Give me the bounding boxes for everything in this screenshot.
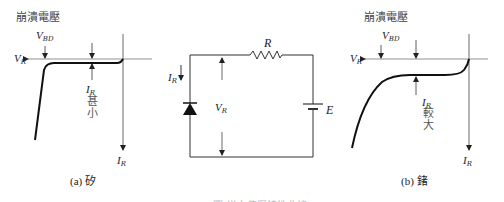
panel-b-ir-note: 較大: [421, 108, 435, 132]
circuit-voltage-label: VR: [215, 102, 227, 115]
resistor-label: R: [264, 37, 271, 49]
figure-caption-cropped: 圖 逆向偏壓特性曲線: [180, 197, 340, 202]
silicon-curve: [35, 59, 123, 140]
reverse-bias-circuit: [181, 51, 323, 157]
germanium-curve: [352, 59, 469, 148]
panel-b-ir-axis-label: IR: [463, 155, 472, 168]
circuit-wire: [190, 55, 313, 157]
panel-b-germanium-graph: [352, 34, 488, 150]
panel-a-title: 崩潰電壓: [16, 12, 60, 23]
panel-b-caption: (b) 鍺: [401, 176, 428, 187]
circuit-current-label: IR: [168, 72, 177, 85]
panel-a-vbd-label: VBD: [36, 30, 54, 43]
panel-a-vr-label: VR: [14, 53, 26, 66]
resistor-symbol: [250, 51, 282, 59]
panel-b-vr-label: VR: [350, 53, 362, 66]
panel-a-ir-axis-label: IR: [117, 155, 126, 168]
source-label: E: [326, 104, 333, 116]
panel-b-vbd-label: VBD: [382, 30, 400, 43]
panel-b-title: 崩潰電壓: [364, 12, 408, 23]
diode-triangle: [183, 103, 197, 115]
panel-a-ir-note: 甚小: [85, 96, 99, 120]
panel-a-caption: (a) 矽: [70, 176, 96, 187]
